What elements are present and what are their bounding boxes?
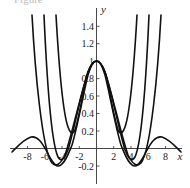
svg-text:0.4: 0.4 bbox=[82, 108, 95, 119]
svg-text:8: 8 bbox=[163, 151, 168, 162]
y-axis-label: y bbox=[100, 3, 106, 15]
svg-text:-8: -8 bbox=[23, 151, 31, 162]
svg-text:1.2: 1.2 bbox=[82, 38, 95, 49]
chart: -8 -6 -4 -2 2 4 6 8 x 1.4 1.2 1 0.8 0.6 … bbox=[0, 0, 190, 188]
svg-text:2: 2 bbox=[111, 151, 116, 162]
svg-text:1.4: 1.4 bbox=[82, 21, 95, 32]
svg-text:-0.2: -0.2 bbox=[78, 161, 94, 172]
svg-text:0.2: 0.2 bbox=[82, 126, 95, 137]
